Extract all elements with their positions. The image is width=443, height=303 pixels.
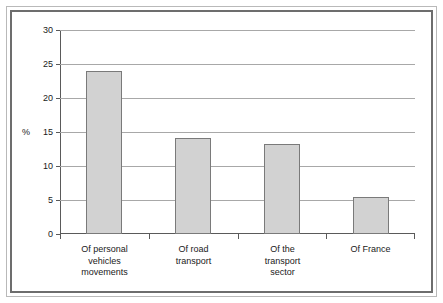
y-axis-tick-label: 0 [48, 230, 53, 239]
x-axis-category-label: Of road transport [149, 244, 238, 267]
bar[interactable] [175, 138, 211, 234]
x-axis-tick-mark [149, 234, 150, 239]
y-axis-tick-label: 20 [43, 94, 53, 103]
gridline [60, 30, 415, 31]
x-axis-tick-mark [60, 234, 61, 239]
y-axis-tick-label: 15 [43, 128, 53, 137]
y-axis-tick-label: 10 [43, 162, 53, 171]
bar[interactable] [264, 144, 300, 234]
y-axis-tick-mark [56, 30, 60, 31]
bar-chart: % 051015202530Of personal vehicles movem… [12, 12, 431, 291]
y-axis-tick-label: 25 [43, 60, 53, 69]
gridline [60, 64, 415, 65]
bar[interactable] [86, 71, 122, 234]
x-axis-category-label: Of the transport sector [238, 244, 327, 279]
y-axis-tick-mark [56, 98, 60, 99]
x-axis-category-label: Of France [326, 244, 415, 256]
y-axis-tick-label: 5 [48, 196, 53, 205]
y-axis-tick-mark [56, 132, 60, 133]
x-axis-tick-mark [238, 234, 239, 239]
x-axis-tick-mark [326, 234, 327, 239]
chart-screenshot: % 051015202530Of personal vehicles movem… [0, 0, 443, 303]
y-axis-title: % [22, 128, 30, 137]
plot-area: 051015202530Of personal vehicles movemen… [60, 30, 415, 234]
y-axis-tick-label: 30 [43, 26, 53, 35]
y-axis-tick-mark [56, 200, 60, 201]
x-axis-tick-mark [414, 234, 415, 239]
y-axis-tick-mark [56, 64, 60, 65]
y-axis-tick-mark [56, 166, 60, 167]
x-axis-category-label: Of personal vehicles movements [60, 244, 149, 279]
bar[interactable] [353, 197, 389, 234]
